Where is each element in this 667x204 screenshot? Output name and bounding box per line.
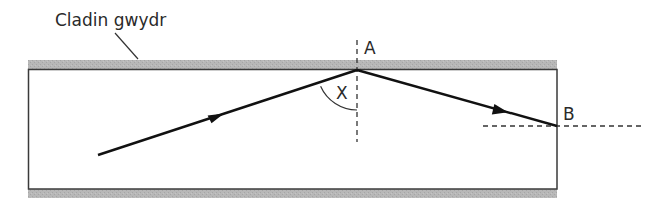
angle-x-label: X	[336, 83, 348, 103]
fibre-core	[29, 70, 558, 190]
point-a-label: A	[364, 38, 376, 58]
cladding-leader-line	[115, 33, 138, 59]
cladding-top	[28, 60, 557, 69]
cladding-bottom	[28, 189, 557, 198]
point-b-label: B	[563, 104, 575, 124]
optical-fibre-diagram: Cladin gwydr A B X	[0, 0, 667, 204]
cladding-label: Cladin gwydr	[55, 10, 166, 30]
